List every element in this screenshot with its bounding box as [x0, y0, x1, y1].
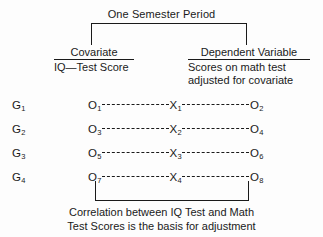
dashed-connector-left — [102, 152, 168, 153]
dashed-connector-left — [102, 128, 168, 129]
one-semester-period-label: One Semester Period — [0, 8, 323, 20]
posttest-observation-subscript: 4 — [259, 128, 263, 137]
covariate-column-subtitle: IQ—Test Score — [54, 61, 144, 74]
dashed-connector-left — [102, 176, 168, 177]
group-label-subscript: 4 — [21, 176, 25, 185]
row-sequence: O3X2O4 — [88, 123, 263, 135]
posttest-observation: O4 — [250, 123, 263, 135]
covariate-column-title: Covariate — [54, 46, 134, 59]
group-label: G2 — [12, 123, 42, 135]
posttest-observation: O6 — [250, 147, 263, 159]
pretest-observation-subscript: 1 — [97, 104, 101, 113]
row-sequence: O5X3O6 — [88, 147, 263, 159]
pretest-observation: O1 — [88, 99, 101, 111]
caption-line-1: Correlation between IQ Test and Math — [0, 205, 323, 219]
group-label: G1 — [12, 99, 42, 111]
posttest-observation-subscript: 6 — [259, 152, 263, 161]
research-design-diagram: One Semester Period Covariate IQ—Test Sc… — [0, 0, 323, 237]
pretest-observation: O5 — [88, 147, 101, 159]
pretest-observation: O3 — [88, 123, 101, 135]
posttest-observation: O2 — [250, 99, 263, 111]
dashed-connector-right — [182, 104, 248, 105]
pretest-observation-subscript: 3 — [97, 128, 101, 137]
covariate-underline — [54, 59, 134, 60]
dependent-variable-underline — [188, 59, 310, 60]
posttest-observation-subscript: 2 — [259, 104, 263, 113]
group-label: G3 — [12, 147, 42, 159]
treatment-marker-subscript: 1 — [178, 104, 182, 113]
treatment-marker-subscript: 2 — [178, 128, 182, 137]
treatment-marker: X2 — [170, 123, 182, 135]
pretest-observation-subscript: 5 — [97, 152, 101, 161]
treatment-marker-subscript: 3 — [178, 152, 182, 161]
treatment-marker: X3 — [170, 147, 182, 159]
posttest-observation-subscript: 8 — [259, 176, 263, 185]
group-label-subscript: 1 — [21, 104, 25, 113]
dependent-variable-column-title: Dependent Variable — [188, 46, 310, 59]
correlation-caption: Correlation between IQ Test and Math Tes… — [0, 205, 323, 233]
design-row: G2O3X2O4 — [0, 123, 323, 139]
caption-line-2: Test Scores is the basis for adjustment — [0, 219, 323, 233]
top-bracket — [91, 23, 247, 45]
group-label-subscript: 2 — [21, 128, 25, 137]
dashed-connector-left — [102, 104, 168, 105]
group-label: G4 — [12, 171, 42, 183]
row-sequence: O1X1O2 — [88, 99, 263, 111]
dashed-connector-right — [182, 128, 248, 129]
treatment-marker: X1 — [170, 99, 182, 111]
design-row: G1O1X1O2 — [0, 99, 323, 115]
dependent-subtitle-line-1: Scores on math test — [188, 61, 316, 74]
dependent-subtitle-line-2: adjusted for covariate — [188, 74, 316, 87]
dependent-variable-column-subtitle: Scores on math test adjusted for covaria… — [188, 61, 316, 87]
group-label-subscript: 3 — [21, 152, 25, 161]
dashed-connector-right — [182, 176, 248, 177]
bottom-bracket — [95, 181, 249, 201]
design-row: G3O5X3O6 — [0, 147, 323, 163]
dashed-connector-right — [182, 152, 248, 153]
posttest-observation: O8 — [250, 171, 263, 183]
